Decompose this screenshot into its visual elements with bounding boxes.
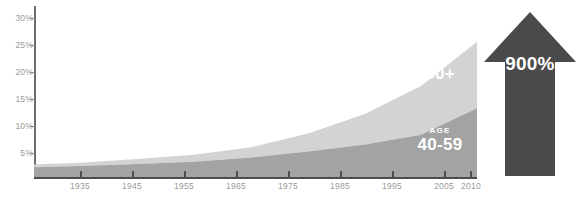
- x-axis-label-1995: 1995: [382, 181, 402, 191]
- x-tick-mark-1945: [132, 171, 134, 178]
- y-axis-label-5: 5%: [1, 148, 33, 158]
- x-tick-mark-1985: [340, 171, 342, 178]
- y-axis-label-25: 25%: [1, 40, 33, 50]
- x-tick-mark-1965: [236, 171, 238, 178]
- x-tick-mark-1935: [80, 171, 82, 178]
- arrow-up-shape: [484, 12, 576, 176]
- x-axis-line: [34, 177, 477, 179]
- x-tick-mark-1975: [288, 171, 290, 178]
- x-axis-label-2010: 2010: [461, 181, 481, 191]
- x-axis-label-1975: 1975: [278, 181, 298, 191]
- y-axis-label-15: 15%: [1, 94, 33, 104]
- y-axis-label-30: 30%: [1, 13, 33, 23]
- x-tick-mark-1995: [392, 171, 394, 178]
- y-axis-label-20: 20%: [1, 67, 33, 77]
- y-axis-label-10: 10%: [1, 121, 33, 131]
- plot-area: [34, 0, 477, 179]
- x-axis-label-1945: 1945: [122, 181, 142, 191]
- x-axis-label-1955: 1955: [174, 181, 194, 191]
- growth-arrow-icon: [483, 10, 577, 178]
- x-axis-label-1935: 1935: [70, 181, 90, 191]
- chart-root: 30% 25% 20% 15% 10% 5% 1935 1945 1955 19…: [0, 0, 579, 198]
- x-tick-mark-1955: [184, 171, 186, 178]
- x-axis-label-1985: 1985: [330, 181, 350, 191]
- stacked-area-svg: [34, 0, 477, 179]
- x-axis-label-2005: 2005: [434, 181, 454, 191]
- arrow-up-icon: [483, 10, 577, 178]
- x-axis-label-1965: 1965: [226, 181, 246, 191]
- x-tick-mark-2005: [444, 171, 446, 178]
- x-tick-mark-2010: [470, 171, 472, 178]
